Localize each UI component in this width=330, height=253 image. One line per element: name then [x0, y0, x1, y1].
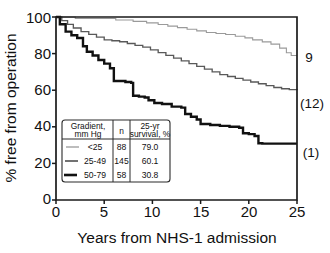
legend-header-n: n — [119, 126, 124, 136]
y-tick-label-40: 40 — [34, 117, 51, 134]
legend-table: Gradient, mm Hg n 25-yr survival, % <25 … — [62, 120, 171, 182]
x-tick-label-10: 10 — [144, 203, 161, 220]
legend-n-25-49: 145 — [114, 156, 129, 166]
legend-header-survival-line2: survival, % — [130, 129, 171, 139]
legend-gradient-50-79: 50-79 — [84, 170, 106, 180]
y-tick-label-100: 100 — [26, 9, 51, 26]
legend-n-50-79: 58 — [117, 170, 127, 180]
legend-survival-25-49: 60.1 — [142, 156, 159, 166]
km-survival-chart: 100 80 60 40 20 0 0 5 10 15 20 25 9 (12)… — [0, 0, 330, 253]
x-tick-label-0: 0 — [52, 203, 60, 220]
legend-gradient-25-49: 25-49 — [84, 156, 106, 166]
legend-header-gradient-line2: mm Hg — [75, 129, 102, 139]
curve-25 — [56, 17, 297, 55]
x-axis-title: Years from NHS-1 admission — [77, 229, 276, 246]
y-tick-label-0: 0 — [43, 190, 51, 207]
curve-end-labels: 9 (12) (1) — [300, 50, 324, 160]
x-tick-label-15: 15 — [193, 203, 210, 220]
x-tick-label-20: 20 — [241, 203, 258, 220]
y-axis-tick-labels: 100 80 60 40 20 0 — [26, 9, 51, 207]
end-label-25-49: (12) — [300, 96, 324, 111]
legend-survival-50-79: 30.8 — [142, 170, 159, 180]
end-label-50-79: (1) — [303, 145, 320, 160]
x-tick-label-5: 5 — [100, 203, 108, 220]
end-label-lt25: 9 — [305, 50, 313, 65]
legend-n-lt25: 88 — [117, 142, 127, 152]
legend-gradient-lt25: <25 — [88, 142, 103, 152]
chart-canvas: 100 80 60 40 20 0 0 5 10 15 20 25 9 (12)… — [0, 0, 330, 253]
legend-survival-lt25: 79.0 — [142, 142, 159, 152]
y-tick-label-60: 60 — [34, 81, 51, 98]
y-axis-title: % free from operation — [2, 33, 19, 182]
x-axis-tick-labels: 0 5 10 15 20 25 — [52, 203, 306, 220]
x-tick-label-25: 25 — [289, 203, 306, 220]
y-tick-label-20: 20 — [34, 154, 51, 171]
y-tick-label-80: 80 — [34, 45, 51, 62]
